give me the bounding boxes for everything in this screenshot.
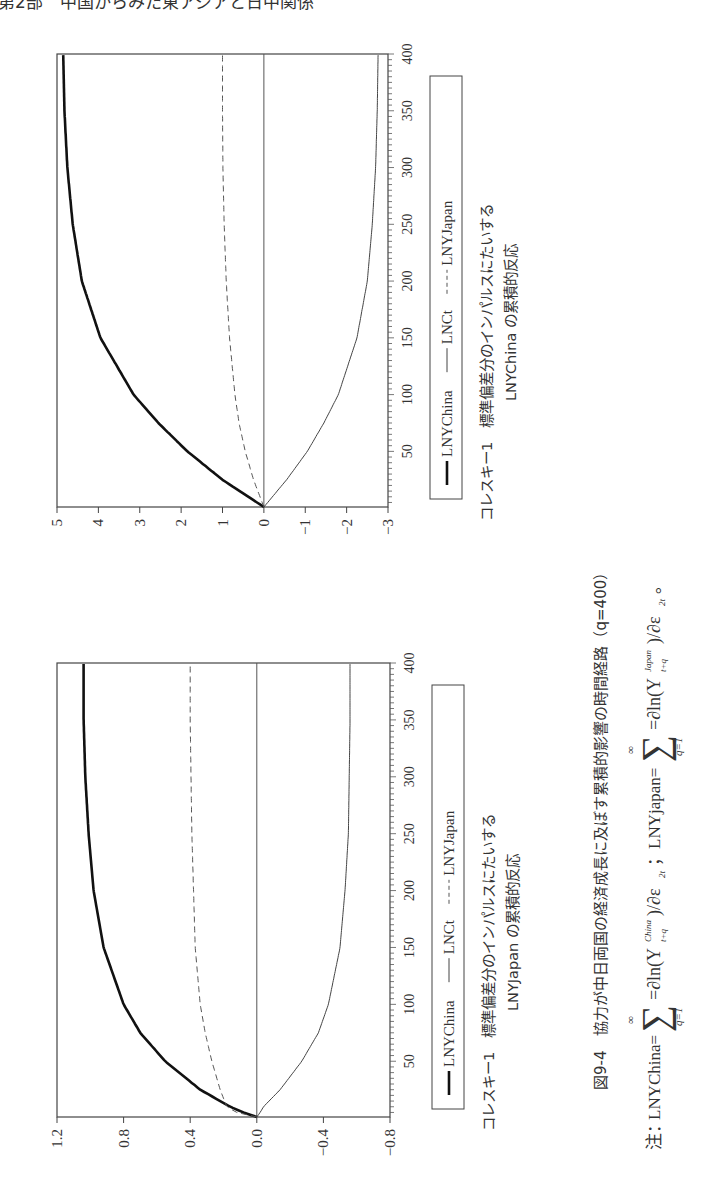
x-tick-label: 400: [400, 44, 415, 65]
y-tick-label: 0: [256, 519, 272, 527]
figure-caption: 図9-4 協力が中日両国の経済成長に及ぼす累積的影響の時間経路（q=400）: [592, 565, 610, 1090]
x-tick-label: 50: [400, 444, 415, 458]
expr-japan-tail: )/∂ε: [644, 616, 665, 644]
note-end: 。: [644, 577, 664, 594]
sum-upper-japan: ∞: [624, 746, 636, 754]
expr-china-tail: )/∂ε: [644, 888, 665, 916]
y-tick-label: 4: [90, 519, 106, 527]
y-tick-label: 1: [215, 519, 231, 527]
plot-frame: [57, 663, 390, 1117]
x-tick-label: 50: [402, 1054, 417, 1068]
chart-lnychina-response: 543210−1−2−350100150200250300350400LNYCh…: [49, 44, 519, 535]
series-lnyjapan: [190, 664, 257, 1117]
sub-eps-japan: 2t: [657, 599, 667, 607]
series-lnychina: [63, 55, 264, 507]
y-tick-label: 3: [132, 519, 148, 527]
note-prefix: 注：: [644, 1116, 664, 1150]
note-lnychina-label: LNYChina=: [645, 1035, 664, 1120]
y-tick-label: 5: [49, 519, 65, 527]
y-tick-label: 0.0: [249, 1129, 265, 1148]
rotated-book-page: 第2部 中国からみた東アジアと日中関係 543210−1−2−350100150…: [0, 0, 708, 1185]
y-tick-label: 0.8: [116, 1129, 132, 1148]
caption-line-2: LNYChina の累積的反応: [503, 243, 519, 401]
y-tick-label: −0.8: [382, 1129, 398, 1156]
series-lnct: [264, 55, 378, 507]
figure-canvas: 第2部 中国からみた東アジアと日中関係 543210−1−2−350100150…: [0, 0, 708, 1185]
x-tick-label: 150: [402, 937, 417, 958]
series-lnct: [257, 664, 350, 1117]
legend-label-lnct: LNCt: [441, 919, 457, 954]
page-header: 第2部 中国からみた東アジアと日中関係: [0, 0, 314, 12]
legend-label-lnyjapan: LNYJapan: [441, 810, 457, 875]
sum-symbol-japan: ∑: [634, 735, 677, 762]
x-tick-label: 300: [402, 766, 417, 787]
plot-frame: [57, 54, 388, 507]
x-tick-label: 100: [402, 994, 417, 1015]
caption-line-1: コレスキー1 標準偏差分のインパルスにたいする: [479, 204, 495, 521]
y-tick-label: −3: [380, 519, 396, 535]
y-tick-label: 2: [173, 519, 189, 527]
legend-label-lnyjapan: LNYJapan: [439, 200, 455, 265]
caption-line-1: コレスキー1 標準偏差分のインパルスにたいする: [481, 814, 497, 1131]
y-tick-label: 0.4: [182, 1129, 198, 1148]
sub-japan: t+q: [658, 658, 668, 672]
x-tick-label: 200: [402, 880, 417, 901]
legend: LNYChinaLNCtLNYJapan: [441, 810, 457, 1095]
x-tick-label: 350: [402, 709, 417, 730]
y-tick-label: −1: [297, 519, 313, 535]
expr-japan: =∂ln(Y: [644, 678, 665, 730]
y-tick-label: −0.4: [315, 1129, 331, 1157]
x-tick-label: 200: [400, 271, 415, 292]
x-tick-label: 100: [400, 384, 415, 405]
sup-japan: Japan: [643, 650, 653, 672]
series-lnyjapan: [223, 55, 264, 507]
y-tick-label: 1.2: [49, 1129, 65, 1148]
x-tick-label: 250: [402, 823, 417, 844]
legend-label-lnct: LNCt: [439, 309, 455, 344]
panel-caption: コレスキー1 標準偏差分のインパルスにたいするLNYChina の累積的反応: [479, 204, 519, 521]
sub-eps-china: 2t: [657, 871, 667, 879]
sup-china: China: [643, 919, 653, 942]
sub-china: t+q: [658, 928, 668, 942]
panel-caption: コレスキー1 標準偏差分のインパルスにたいするLNYJapan の累積的反応: [481, 814, 521, 1131]
legend-label-lnychina: LNYChina: [441, 1000, 457, 1067]
legend-label-lnychina: LNYChina: [439, 390, 455, 457]
sum-symbol-china: ∑: [634, 1005, 677, 1032]
legend: LNYChinaLNCtLNYJapan: [439, 200, 455, 485]
y-tick-label: −2: [339, 519, 355, 535]
series-lnychina: [84, 664, 257, 1117]
x-tick-label: 300: [400, 157, 415, 178]
x-tick-label: 250: [400, 214, 415, 235]
figure-title: 図9-4 協力が中日両国の経済成長に及ぼす累積的影響の時間経路（q=400）: [592, 565, 610, 1090]
sum-lower-china: q=1: [672, 1008, 684, 1026]
caption-line-2: LNYJapan の累積的反応: [505, 853, 521, 1011]
note-lnyjapan-label: ；LNYjapan=: [645, 768, 664, 866]
chart-lnyjapan-response: 1.20.80.40.0−0.4−0.850100150200250300350…: [49, 653, 521, 1157]
sum-upper-china: ∞: [624, 1016, 636, 1024]
x-tick-label: 150: [400, 327, 415, 348]
x-tick-label: 350: [400, 100, 415, 121]
expr-china: =∂ln(Y: [644, 948, 665, 1000]
figure-note: 注： LNYChina= ∑ ∞ q=1 =∂ln(Y China t+q )/…: [624, 577, 684, 1150]
sum-lower-japan: q=1: [672, 738, 684, 756]
x-tick-label: 400: [402, 653, 417, 674]
